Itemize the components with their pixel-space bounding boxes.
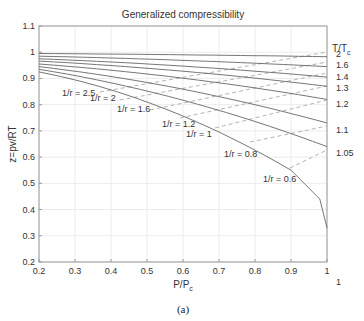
y-tick-label: 0.9 bbox=[22, 73, 35, 83]
isotherm-label: 1.3 bbox=[336, 83, 349, 93]
x-tick-label: 0.9 bbox=[285, 266, 298, 276]
y-tick-label: 0.7 bbox=[22, 126, 35, 136]
grid bbox=[39, 26, 327, 262]
density-label: 1/r = 0.6 bbox=[263, 174, 296, 184]
y-tick-label: 0.6 bbox=[22, 152, 35, 162]
y-tick-label: 0.8 bbox=[22, 100, 35, 110]
y-tick-label: 0.5 bbox=[22, 178, 35, 188]
density-label: 1/r = 1.6 bbox=[117, 104, 150, 114]
x-tick-label: 0.7 bbox=[213, 266, 226, 276]
density-label: 1/r = 0.8 bbox=[224, 149, 257, 159]
x-tick-label: 0.3 bbox=[69, 266, 82, 276]
y-tick-label: 1.1 bbox=[22, 21, 35, 31]
isotherm-label: 1.4 bbox=[336, 72, 349, 82]
density-labels: 1/r = 2.51/r = 21/r = 1.61/r = 1.21/r = … bbox=[62, 88, 296, 184]
figure-caption: (a) bbox=[177, 303, 190, 316]
isotherm-label: 1.1 bbox=[336, 125, 349, 135]
y-tick-label: 1 bbox=[30, 47, 35, 57]
isotherm-label: 1 bbox=[336, 277, 341, 287]
density-label: 1/r = 1.2 bbox=[162, 119, 195, 129]
density-label: 1/r = 2 bbox=[90, 93, 116, 103]
y-tick-label: 0.2 bbox=[22, 257, 35, 267]
right-axis-title: T/Tc bbox=[332, 43, 351, 56]
x-tick-label: 0.8 bbox=[249, 266, 262, 276]
right-axis-labels: 21.61.41.31.21.11.051 bbox=[336, 49, 354, 287]
x-tick-label: 0.6 bbox=[177, 266, 190, 276]
density-label: 1/r = 1 bbox=[186, 129, 212, 139]
y-tick-label: 0.3 bbox=[22, 231, 35, 241]
chart-title: Generalized compressibility bbox=[122, 9, 244, 20]
isotherm-label: 1.6 bbox=[336, 60, 349, 70]
y-tick-label: 0.4 bbox=[22, 205, 35, 215]
axis-ticks: 0.20.30.40.50.60.70.80.910.20.30.40.50.6… bbox=[22, 21, 329, 276]
x-tick-label: 0.4 bbox=[105, 266, 118, 276]
compressibility-chart: 0.20.30.40.50.60.70.80.910.20.30.40.50.6… bbox=[0, 0, 364, 321]
y-axis-label: z=pv/RT bbox=[7, 125, 18, 162]
x-tick-label: 1 bbox=[324, 266, 329, 276]
x-axis-label: P/Pc bbox=[173, 279, 193, 292]
isotherm-label: 1.05 bbox=[336, 148, 354, 158]
x-tick-label: 0.2 bbox=[33, 266, 46, 276]
x-tick-label: 0.5 bbox=[141, 266, 154, 276]
isotherm-label: 1.2 bbox=[336, 99, 349, 109]
